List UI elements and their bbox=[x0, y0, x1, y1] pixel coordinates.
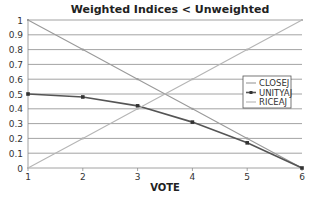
data-point-closej bbox=[191, 108, 193, 110]
y-tick-label: 0 bbox=[17, 164, 23, 174]
x-axis-label: VOTE bbox=[150, 182, 180, 193]
x-tick-label: 5 bbox=[244, 172, 250, 182]
data-point-riceaj bbox=[301, 19, 303, 21]
y-tick-label: 0.3 bbox=[9, 119, 23, 129]
y-tick-label: 0.7 bbox=[9, 60, 23, 70]
data-point-unityaj bbox=[81, 95, 85, 99]
x-tick-label: 2 bbox=[80, 172, 86, 182]
x-tick-label: 1 bbox=[25, 172, 31, 182]
legend-label-unityaj: UNITYAJ bbox=[259, 88, 292, 98]
y-tick-label: 0.1 bbox=[9, 149, 23, 159]
data-point-unityaj bbox=[245, 141, 249, 145]
chart-title: Weighted Indices < Unweighted bbox=[71, 3, 270, 16]
data-point-unityaj bbox=[300, 166, 304, 170]
y-tick-label: 0.2 bbox=[9, 134, 23, 144]
x-tick-label: 3 bbox=[135, 172, 141, 182]
y-tick-label: 0.8 bbox=[9, 45, 24, 55]
legend-label-closej: CLOSEJ bbox=[259, 78, 289, 88]
legend-marker bbox=[250, 91, 253, 94]
data-point-unityaj bbox=[191, 120, 195, 124]
data-point-closej bbox=[82, 49, 84, 51]
legend: CLOSEJUNITYAJRICEAJ bbox=[243, 76, 292, 108]
y-axis-ticks: 00.10.20.30.40.50.60.70.80.91 bbox=[9, 16, 24, 174]
y-tick-label: 1 bbox=[17, 16, 23, 26]
data-point-closej bbox=[246, 137, 248, 139]
y-tick-label: 0.6 bbox=[9, 75, 24, 85]
y-tick-label: 0.4 bbox=[9, 104, 24, 114]
y-tick-label: 0.5 bbox=[9, 90, 23, 100]
data-point-riceaj bbox=[246, 49, 248, 51]
data-point-closej bbox=[27, 19, 29, 21]
data-point-unityaj bbox=[26, 92, 30, 96]
legend-label-riceaj: RICEAJ bbox=[259, 97, 287, 107]
x-axis-ticks: 123456 bbox=[25, 168, 305, 182]
data-point-riceaj bbox=[137, 108, 139, 110]
data-point-riceaj bbox=[82, 137, 84, 139]
data-point-unityaj bbox=[136, 104, 140, 108]
line-chart: Weighted Indices < Unweighted 00.10.20.3… bbox=[0, 0, 310, 204]
data-point-closej bbox=[137, 78, 139, 80]
data-point-riceaj bbox=[191, 78, 193, 80]
data-point-riceaj bbox=[27, 167, 29, 169]
y-tick-label: 0.9 bbox=[9, 30, 24, 40]
x-tick-label: 4 bbox=[190, 172, 196, 182]
x-tick-label: 6 bbox=[299, 172, 305, 182]
